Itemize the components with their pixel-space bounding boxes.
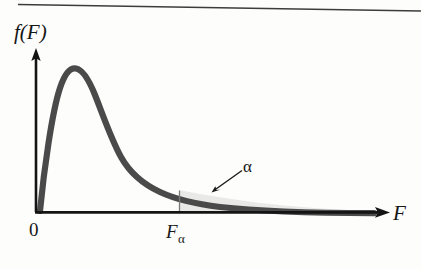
f-distribution-figure: f(F) F 0 Fα α: [0, 0, 421, 269]
top-rule-line: [18, 5, 421, 12]
critical-value-label: Fα: [166, 222, 185, 245]
x-axis-label: F: [393, 203, 406, 224]
critical-value-subscript: α: [178, 231, 185, 246]
critical-value-letter: F: [166, 221, 178, 242]
alpha-leader-line: [216, 171, 242, 190]
y-axis-label: f(F): [14, 22, 47, 43]
figure-canvas: [0, 0, 421, 269]
origin-label: 0: [29, 220, 39, 239]
density-curve: [40, 68, 374, 213]
tail-area-alpha-label: α: [243, 158, 252, 175]
